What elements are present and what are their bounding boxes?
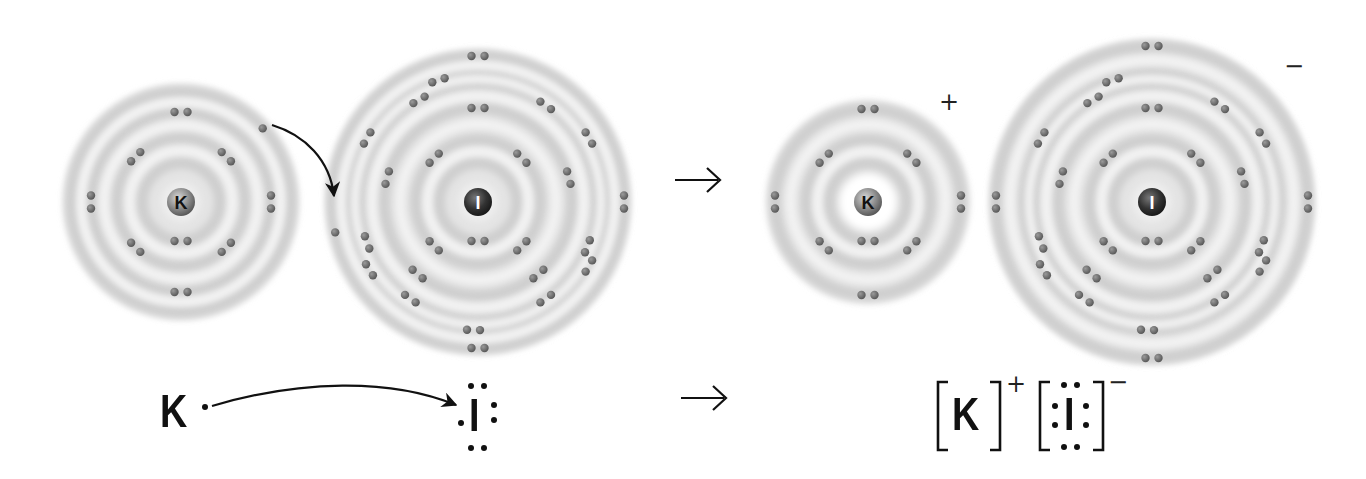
electron [1255,267,1263,275]
electron [136,248,144,256]
electron [1109,246,1117,254]
electron [385,167,393,175]
electron [1221,105,1229,113]
nucleus-label: K [862,193,875,213]
electron [522,159,530,167]
electron [1083,99,1091,107]
electron [563,167,571,175]
electron [365,244,373,252]
electron [1039,244,1047,252]
electron [771,204,779,212]
electron [218,148,226,156]
electron [1154,237,1162,245]
electron [369,271,377,279]
electron [1141,354,1149,362]
electron [529,274,537,282]
electron [539,266,547,274]
charge-K-product: + [1006,370,1026,398]
electron [418,274,426,282]
electron [480,52,488,60]
electron [1035,232,1043,240]
electron [170,237,178,245]
electron [1262,256,1270,264]
electron [425,159,433,167]
electron [547,291,555,299]
electron [361,232,369,240]
electron [912,237,920,245]
electron [467,104,475,112]
electron [1304,191,1312,199]
electron [903,246,911,254]
electron [480,104,488,112]
electron [1109,149,1117,157]
electron [183,288,191,296]
nucleus-label: I [1149,193,1154,213]
electron [1255,128,1263,136]
electron [1059,167,1067,175]
electron [1154,42,1162,50]
electron [420,92,428,100]
charge-K-ion-model: + [939,88,959,116]
electron [1187,246,1195,254]
reaction-arrow-top [675,168,720,192]
electron [331,228,339,236]
electron [566,180,574,188]
electron [183,108,191,116]
electron [1141,42,1149,50]
electron [1196,237,1204,245]
electron [513,149,521,157]
electron [1237,167,1245,175]
electron [1141,237,1149,245]
electron [401,291,409,299]
electron [435,149,443,157]
K-atom-model: K [63,84,299,320]
lewis-symbol-I-reactant: I [469,388,479,442]
electron [1082,266,1090,274]
electron [620,204,628,212]
electron [1055,180,1063,188]
electron [127,157,135,165]
electron [170,288,178,296]
electron [1137,326,1145,334]
electron [957,191,965,199]
electron [815,159,823,167]
electron [581,248,589,256]
electron [825,246,833,254]
electron [381,180,389,188]
electron [467,237,475,245]
electron [992,191,1000,199]
I-atom-model: I [326,50,630,354]
electron [536,97,544,105]
electron [1092,274,1100,282]
electron [1240,180,1248,188]
electron [586,236,594,244]
I-ion-model: I [990,40,1314,364]
lewis-symbol-K-product: K [952,387,979,441]
electron [1150,326,1158,334]
electron [825,149,833,157]
electron [1085,298,1093,306]
electron [870,105,878,113]
electron [1114,74,1122,82]
charge-I-product: − [1108,368,1128,396]
electron [903,149,911,157]
electron [1102,78,1110,86]
electron [267,191,275,199]
electron [1040,128,1048,136]
electron [259,124,267,132]
electron [1210,97,1218,105]
electron [536,298,544,306]
electron [136,148,144,156]
electron [183,237,191,245]
electron [771,191,779,199]
lewis-dot-K-valence [202,404,208,410]
electron [267,204,275,212]
reaction-arrow-bottom [681,386,726,410]
electron [227,157,235,165]
electron [227,239,235,247]
ionic-bond-diagram: KIKI [0,0,1366,479]
electron [1099,237,1107,245]
electron [1099,159,1107,167]
electron [480,237,488,245]
electron [1141,104,1149,112]
